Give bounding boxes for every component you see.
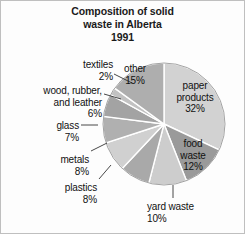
- slice-label-paper-name-1: paper: [169, 80, 221, 92]
- slice-label-wood-name-1: wood, rubber,: [7, 85, 102, 97]
- slice-label-plastics-name: plastics: [41, 182, 97, 194]
- slice-label-food-name-1: food: [173, 138, 213, 150]
- slice-label-textiles-name: textiles: [47, 59, 113, 71]
- slice-label-metals-name: metals: [33, 154, 89, 166]
- slice-label-metals-value: 8%: [33, 166, 89, 178]
- slice-label-metals: metals 8%: [33, 154, 89, 177]
- leader-line-plastics: [99, 165, 111, 179]
- slice-label-wood-value: 6%: [7, 108, 102, 120]
- slice-label-glass: glass 7%: [25, 120, 79, 143]
- slice-label-plastics-value: 8%: [41, 194, 97, 206]
- slice-label-yardwaste-value: 10%: [147, 213, 194, 225]
- slice-label-paper-name-2: products: [169, 92, 221, 104]
- slice-label-wood: wood, rubber, and leather 6%: [7, 85, 102, 120]
- slice-label-other: other 15%: [113, 63, 157, 86]
- slice-label-yardwaste: yard waste 10%: [147, 201, 194, 224]
- slice-label-food-name-2: waste: [173, 150, 213, 162]
- slice-label-paper: paper products 32%: [169, 80, 221, 115]
- slice-label-wood-name-2: and leather: [7, 97, 102, 109]
- leader-line-metals: [91, 143, 107, 151]
- slice-label-plastics: plastics 8%: [41, 182, 97, 205]
- slice-label-glass-value: 7%: [25, 132, 79, 144]
- slice-label-yardwaste-name: yard waste: [147, 201, 194, 213]
- slice-label-textiles-value: 2%: [47, 71, 113, 83]
- slice-label-glass-name: glass: [25, 120, 79, 132]
- slice-label-other-name: other: [113, 63, 157, 75]
- slice-label-paper-value: 32%: [169, 103, 221, 115]
- slice-label-textiles: textiles 2%: [47, 59, 113, 82]
- slice-label-other-value: 15%: [113, 75, 157, 87]
- chart-figure: Composition of solid waste in Alberta 19…: [0, 0, 245, 234]
- slice-label-food-value: 12%: [173, 161, 213, 173]
- slice-label-food: food waste 12%: [173, 138, 213, 173]
